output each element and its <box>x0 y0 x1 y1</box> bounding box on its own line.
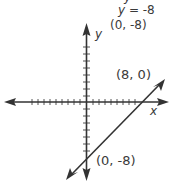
coordinate-plane <box>0 0 178 181</box>
point-label-y-intercept: (0, -8) <box>96 154 136 167</box>
x-axis-label: x <box>150 105 157 117</box>
y-axis-label: y <box>95 28 102 40</box>
point-label-x-intercept: (8, 0) <box>116 68 151 81</box>
